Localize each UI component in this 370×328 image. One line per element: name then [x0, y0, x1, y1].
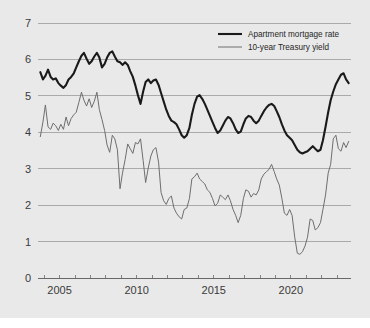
x-tick-label: 2020 [279, 284, 303, 296]
legend-label: Apartment mortgage rate [248, 30, 339, 39]
y-tick-label: 7 [25, 17, 31, 29]
y-tick-label: 2 [25, 199, 31, 211]
y-tick-label: 1 [25, 236, 31, 248]
y-tick-label: 5 [25, 90, 31, 102]
series-line [40, 51, 348, 153]
x-tick-label: 2005 [47, 284, 71, 296]
chart-figure: 01234567 2005201020152020 Apartment mort… [0, 0, 370, 328]
x-axis-tickmarks [44, 275, 337, 279]
y-tick-label: 0 [25, 272, 31, 284]
data-series [40, 51, 348, 254]
x-axis-tick-labels: 2005201020152020 [47, 284, 303, 296]
line-chart: 01234567 2005201020152020 Apartment mort… [0, 0, 370, 328]
y-axis-tick-labels: 01234567 [25, 17, 31, 284]
x-tick-label: 2010 [124, 284, 148, 296]
legend-label: 10-year Treasury yield [248, 43, 329, 52]
series-line [40, 92, 348, 254]
y-tick-label: 3 [25, 163, 31, 175]
y-tick-label: 6 [25, 53, 31, 65]
figure-bottom-margin [0, 318, 370, 328]
chart-legend: Apartment mortgage rate10-year Treasury … [218, 30, 339, 52]
x-tick-label: 2015 [202, 284, 226, 296]
y-tick-label: 4 [25, 126, 31, 138]
